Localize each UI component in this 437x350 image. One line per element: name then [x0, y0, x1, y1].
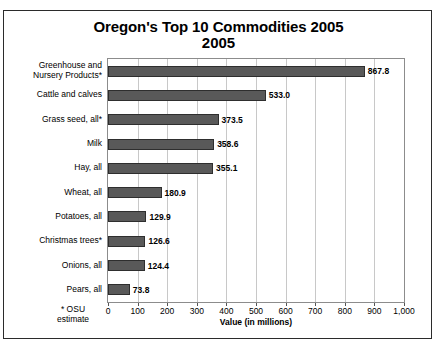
bar-value-label: 355.1: [216, 163, 237, 173]
axis-tick-label: 400: [219, 306, 233, 316]
category-label: Hay, all: [4, 163, 102, 173]
bar: [108, 260, 145, 271]
bar-value-label: 180.9: [165, 188, 186, 198]
bar: [108, 66, 365, 77]
chart-figure: Oregon's Top 10 Commodities 2005 2005 Gr…: [3, 10, 432, 339]
axis-tick-label: 200: [160, 306, 174, 316]
axis-tick-label: 700: [308, 306, 322, 316]
gridline-vertical: [404, 59, 405, 302]
value-axis-ticks: 01002003004005006007008009001,000: [107, 303, 405, 317]
bar: [108, 284, 130, 295]
bar-row: [108, 156, 404, 180]
bar-value-label: 73.8: [133, 285, 150, 295]
bar-value-label: 126.6: [148, 236, 169, 246]
chart-title: Oregon's Top 10 Commodities 2005: [4, 19, 433, 35]
chart-title-block: Oregon's Top 10 Commodities 2005 2005: [4, 19, 433, 51]
category-label: Pears, all: [4, 285, 102, 295]
bar-row: [108, 278, 404, 302]
bar: [108, 236, 145, 247]
bar: [108, 114, 219, 125]
category-label: Onions, all: [4, 261, 102, 271]
axis-tick-label: 100: [131, 306, 145, 316]
bar-value-label: 373.5: [222, 115, 243, 125]
bar-row: [108, 108, 404, 132]
bar-value-label: 358.6: [217, 139, 238, 149]
category-label: Milk: [4, 139, 102, 149]
category-label: Cattle and calves: [4, 90, 102, 100]
bar: [108, 187, 162, 198]
plot-area: 867.8533.0373.5358.6355.1180.9129.9126.6…: [107, 58, 405, 303]
category-label: Grass seed, all*: [4, 115, 102, 125]
axis-tick-label: 0: [106, 306, 111, 316]
bar-row: [108, 59, 404, 83]
axis-tick-label: 500: [249, 306, 263, 316]
category-label: Wheat, all: [4, 188, 102, 198]
bar-value-label: 533.0: [269, 90, 290, 100]
axis-tick-label: 900: [367, 306, 381, 316]
category-axis-labels: Greenhouse and Nursery Products*Cattle a…: [4, 58, 105, 303]
bar-value-label: 124.4: [148, 261, 169, 271]
bar-value-label: 867.8: [368, 66, 389, 76]
bar: [108, 211, 146, 222]
bar-row: [108, 83, 404, 107]
chart-footnote: * OSU estimate: [44, 305, 102, 325]
bar: [108, 139, 214, 150]
value-axis-title: Value (in millions): [107, 317, 405, 327]
category-label: Greenhouse and Nursery Products*: [4, 61, 102, 81]
axis-tick-label: 300: [190, 306, 204, 316]
axis-tick-label: 600: [279, 306, 293, 316]
category-label: Potatoes, all: [4, 212, 102, 222]
bar-value-label: 129.9: [149, 212, 170, 222]
axis-tick-label: 800: [338, 306, 352, 316]
bar-row: [108, 132, 404, 156]
category-label: Christmas trees*: [4, 236, 102, 246]
bar: [108, 90, 266, 101]
bar-row: [108, 181, 404, 205]
axis-tick-label: 1,000: [393, 306, 414, 316]
bar: [108, 163, 213, 174]
chart-subtitle: 2005: [4, 35, 433, 51]
